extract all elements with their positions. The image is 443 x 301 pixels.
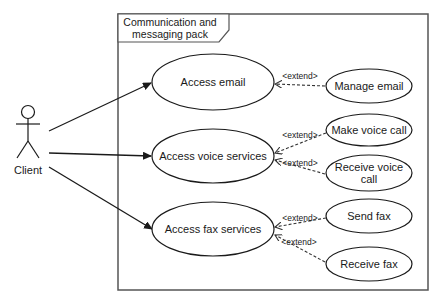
use-case-label: Send fax	[347, 210, 391, 222]
use-case-label-line1: Receive voice	[335, 161, 403, 173]
use-case-label: Manage email	[334, 80, 403, 92]
use-case-label: Make voice call	[331, 124, 406, 136]
use-case-receive-voice-call[interactable]: Receive voice call	[326, 155, 412, 191]
extend-label: <extend>	[282, 213, 317, 223]
use-case-label: Access fax services	[165, 223, 262, 235]
actor-head	[22, 106, 35, 119]
use-case-label-line2: call	[361, 173, 378, 185]
actor-left-leg	[17, 141, 28, 158]
extend-label: <extend>	[282, 158, 317, 168]
use-case-manage-email[interactable]: Manage email	[326, 69, 412, 103]
use-case-make-voice-call[interactable]: Make voice call	[326, 114, 412, 146]
extend-label: <extend>	[282, 71, 317, 81]
actor-client[interactable]: Client	[14, 106, 42, 177]
use-case-access-fax-services[interactable]: Access fax services	[152, 202, 274, 256]
use-case-label: Access voice services	[159, 150, 267, 162]
use-case-label: Receive fax	[340, 258, 398, 270]
use-case-access-email[interactable]: Access email	[152, 54, 274, 110]
actor-label: Client	[14, 164, 42, 176]
use-case-label: Access email	[181, 76, 246, 88]
actor-right-leg	[28, 141, 39, 158]
package-title-line2: messaging pack	[132, 28, 209, 40]
extend-label: <extend>	[282, 130, 317, 140]
use-case-access-voice-services[interactable]: Access voice services	[152, 129, 274, 183]
use-case-receive-fax[interactable]: Receive fax	[326, 247, 412, 281]
extend-label: <extend>	[281, 237, 316, 247]
use-case-send-fax[interactable]: Send fax	[326, 199, 412, 233]
package-title-line1: Communication and	[123, 16, 217, 28]
use-case-diagram: Communication and messaging pack Client …	[0, 0, 443, 301]
